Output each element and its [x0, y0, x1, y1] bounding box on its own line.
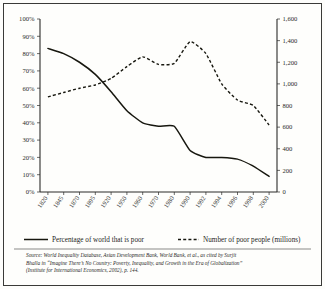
- y-axis-right-tick-label: 800: [283, 102, 294, 109]
- x-axis-tick-label: 1996: [225, 195, 238, 209]
- y-axis-left-tick-label: 40%: [22, 119, 35, 126]
- y-axis-right-tick-label: 1,000: [283, 80, 299, 87]
- x-axis-tick-label: 1998: [241, 195, 254, 209]
- legend-label-number-poor: Number of poor people (millions): [203, 236, 301, 244]
- y-axis-right-tick-label: 600: [283, 123, 294, 130]
- y-axis-left-labels: 0%10%20%30%40%50%60%70%80%90%100%: [19, 15, 35, 195]
- y-axis-left-tick-label: 20%: [22, 154, 35, 161]
- source-note: Source: World Inequality Database, Asian…: [26, 252, 242, 274]
- y-axis-left-tick-label: 80%: [22, 50, 35, 57]
- y-axis-right-labels: 02004006008001,0001,2001,4001,600: [283, 15, 299, 195]
- y-axis-left-tick-label: 0%: [26, 188, 35, 195]
- x-axis-tick-label: 1820: [36, 195, 49, 209]
- source-line-1: Source: World Inequality Database, Asian…: [26, 252, 237, 258]
- legend-label-percentage-poor: Percentage of world that is poor: [52, 236, 145, 244]
- chart-canvas: 0%10%20%30%40%50%60%70%80%90%100% 020040…: [0, 0, 325, 289]
- source-line-2: Bhalla in “Imagine There’s No Country: P…: [26, 260, 242, 266]
- y-axis-right-tick-label: 1,400: [283, 37, 299, 44]
- source-line-3: (Institute for International Economics, …: [26, 267, 139, 274]
- x-axis-tick-label: 1845: [51, 195, 64, 209]
- y-axis-left-tick-label: 90%: [22, 33, 35, 40]
- y-axis-right-tick-label: 1,200: [283, 59, 299, 66]
- plot-axes: [40, 19, 277, 192]
- y-axis-left-tick-label: 50%: [22, 102, 35, 109]
- y-axis-left-tick-label: 10%: [22, 171, 35, 178]
- x-axis-tick-label: 1994: [209, 194, 223, 209]
- y-axis-left-tick-label: 100%: [19, 15, 35, 22]
- y-axis-right-tick-label: 0: [283, 188, 287, 195]
- series-line-number-poor: [48, 42, 269, 125]
- x-axis-tick-label: 1920: [99, 195, 112, 209]
- x-axis-tick-label: 1970: [146, 195, 159, 209]
- x-axis-tick-label: 2000: [257, 195, 270, 209]
- x-axis-tick-label: 1992: [194, 195, 207, 209]
- x-axis-tick-label: 1980: [162, 195, 175, 209]
- y-axis-right-tick-label: 400: [283, 145, 294, 152]
- x-axis-tick-label: 1870: [67, 195, 80, 209]
- x-axis-tick-label: 1960: [130, 195, 143, 209]
- y-axis-left-tick-label: 60%: [22, 85, 35, 92]
- y-axis-right-tick-label: 200: [283, 167, 294, 174]
- chart-legend: Percentage of world that is poor Number …: [24, 236, 301, 244]
- y-axis-left-tick-label: 70%: [22, 67, 35, 74]
- poverty-trend-figure: 0%10%20%30%40%50%60%70%80%90%100% 020040…: [0, 0, 325, 289]
- y-axis-right-tick-label: 1,600: [283, 15, 299, 22]
- series-line-percentage-poor: [48, 48, 269, 176]
- y-axis-left-tick-label: 30%: [22, 136, 35, 143]
- x-axis-labels: 1820184518701895192019501960197019801990…: [36, 194, 270, 209]
- x-axis-tick-label: 1990: [178, 195, 191, 209]
- x-axis-tick-label: 1895: [83, 195, 96, 209]
- x-axis-tick-label: 1950: [115, 195, 128, 209]
